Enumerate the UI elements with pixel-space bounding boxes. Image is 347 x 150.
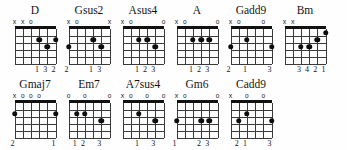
open-string-markers: xox xyxy=(69,18,110,26)
open-string-icon: o xyxy=(261,92,265,99)
string-line xyxy=(69,103,70,138)
chord-name: Asus4 xyxy=(129,4,158,18)
finger-dot[interactable] xyxy=(198,37,204,43)
fret-line xyxy=(69,50,110,51)
chord-diagram[interactable]: Bmxx3421 xyxy=(278,4,332,77)
open-string-icon: o xyxy=(129,18,133,25)
finger-dot[interactable] xyxy=(323,30,329,36)
open-string-markers: xooo xyxy=(15,92,56,100)
open-string-icon: o xyxy=(162,92,166,99)
string-line xyxy=(56,103,57,138)
finger-dot[interactable] xyxy=(228,44,234,50)
finger-dot[interactable] xyxy=(298,44,304,50)
finger-dot[interactable] xyxy=(207,118,213,124)
fret-line xyxy=(285,50,326,51)
fingering-digit: 3 xyxy=(268,65,272,75)
fingering-numbers: 123 xyxy=(121,65,166,77)
fret-line xyxy=(69,57,110,58)
string-line xyxy=(164,29,165,64)
finger-dot[interactable] xyxy=(99,118,105,124)
chord-diagram[interactable]: Gm6xoo123 xyxy=(170,78,224,150)
fret-line xyxy=(15,131,56,132)
fret-line xyxy=(123,36,164,37)
chord-diagram[interactable]: Gadd9xoo213 xyxy=(224,4,278,77)
muted-string-icon: x xyxy=(283,18,287,25)
finger-dot[interactable] xyxy=(269,44,275,50)
fretboard-grid xyxy=(231,100,272,138)
nut-bar xyxy=(123,100,164,103)
fingering-numbers: 132 xyxy=(13,65,58,77)
chord-diagram[interactable]: A7sus4xooo13 xyxy=(116,78,170,150)
fingering-digit: 1 xyxy=(89,65,93,75)
finger-dot[interactable] xyxy=(53,111,59,117)
nut-bar xyxy=(15,26,56,29)
finger-dot[interactable] xyxy=(136,37,142,43)
finger-dot[interactable] xyxy=(244,111,250,117)
muted-string-icon: x xyxy=(21,18,25,25)
fret-line xyxy=(177,57,218,58)
finger-dot[interactable] xyxy=(74,111,80,117)
open-string-icon: o xyxy=(145,92,149,99)
finger-dot[interactable] xyxy=(82,111,88,117)
finger-dot[interactable] xyxy=(136,111,142,117)
muted-string-icon: x xyxy=(291,18,295,25)
string-line xyxy=(164,103,165,138)
finger-dot[interactable] xyxy=(174,118,180,124)
finger-dot[interactable] xyxy=(99,44,105,50)
open-string-icon: o xyxy=(162,18,166,25)
string-line xyxy=(15,103,16,138)
fretboard-grid xyxy=(231,26,272,64)
string-line xyxy=(139,29,140,64)
fret-line xyxy=(231,131,272,132)
fingering-digit: 4 xyxy=(305,65,309,75)
finger-dot[interactable] xyxy=(153,44,159,50)
finger-dot[interactable] xyxy=(315,37,321,43)
fingering-digit: 1 xyxy=(322,65,326,75)
finger-dot[interactable] xyxy=(90,37,96,43)
finger-dot[interactable] xyxy=(66,44,72,50)
string-line xyxy=(131,103,132,138)
nut-bar xyxy=(231,26,272,29)
fingering-digit: 1 xyxy=(243,139,247,149)
chord-diagram[interactable]: Axoo123 xyxy=(170,4,224,77)
string-line xyxy=(255,103,256,138)
fret-line xyxy=(177,131,218,132)
finger-dot[interactable] xyxy=(144,37,150,43)
chord-diagram[interactable]: Em7ooo123 xyxy=(62,78,116,150)
fret-line xyxy=(177,124,218,125)
chord-diagram[interactable]: Gsus2xox213 xyxy=(62,4,116,77)
chord-diagram[interactable]: Dxxo132 xyxy=(8,4,62,77)
finger-dot[interactable] xyxy=(236,118,242,124)
muted-string-icon: x xyxy=(229,18,233,25)
string-line xyxy=(185,103,186,138)
fret-line xyxy=(231,36,272,37)
finger-dot[interactable] xyxy=(198,118,204,124)
open-string-icon: o xyxy=(67,92,71,99)
string-line xyxy=(56,29,57,64)
string-line xyxy=(31,103,32,138)
fretboard-grid xyxy=(15,26,56,64)
fingering-digit: 1 xyxy=(35,65,39,75)
fret-line xyxy=(231,57,272,58)
fret-line xyxy=(285,57,326,58)
chord-diagram[interactable]: Cadd9xoo213 xyxy=(224,78,278,150)
chord-diagram[interactable]: Asus4xoo123 xyxy=(116,4,170,77)
finger-dot[interactable] xyxy=(269,118,275,124)
finger-dot[interactable] xyxy=(53,37,59,43)
finger-dot[interactable] xyxy=(153,118,159,124)
open-string-markers: xx xyxy=(285,18,326,26)
chord-diagram[interactable]: Gmaj7xooo21 xyxy=(8,78,62,150)
muted-string-icon: x xyxy=(121,92,125,99)
open-string-icon: o xyxy=(83,92,87,99)
finger-dot[interactable] xyxy=(244,37,250,43)
finger-dot[interactable] xyxy=(45,44,51,50)
finger-dot[interactable] xyxy=(12,111,18,117)
muted-string-icon: x xyxy=(175,92,179,99)
fingering-digit: 3 xyxy=(97,65,101,75)
open-string-icon: o xyxy=(183,18,187,25)
finger-dot[interactable] xyxy=(36,37,42,43)
finger-dot[interactable] xyxy=(190,37,196,43)
finger-dot[interactable] xyxy=(207,37,213,43)
fingering-digit: 3 xyxy=(205,65,209,75)
finger-dot[interactable] xyxy=(306,44,312,50)
